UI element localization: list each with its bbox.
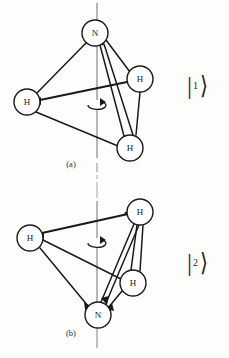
ket-2-number: 2 xyxy=(192,258,199,268)
bond-n-hleft-a xyxy=(37,43,86,93)
ket-state-2: |2⟩ xyxy=(187,251,209,276)
bond-hright-hbottom-a xyxy=(136,92,140,135)
atom-nitrogen-b: N xyxy=(85,302,111,328)
bond-n-hright-a xyxy=(106,40,130,72)
molecule-diagram-svg: N H H H (a) xyxy=(0,0,229,358)
atom-nitrogen-a: N xyxy=(82,20,108,46)
atom-label-h-left-a: H xyxy=(24,97,31,107)
atom-hydrogen-middle-b: H xyxy=(120,270,146,296)
atom-hydrogen-right-a: H xyxy=(127,66,153,92)
atom-hydrogen-bottom-a: H xyxy=(117,135,143,161)
bond-hleft-hmiddle-b xyxy=(43,240,121,279)
atom-label-n-b: N xyxy=(95,310,102,320)
atom-hydrogen-topright-b: H xyxy=(127,199,153,225)
bond-htopright-hmiddle-b-2 xyxy=(140,225,143,271)
ket-1-number: 1 xyxy=(192,81,199,91)
panel-a-group: N H H H (a) xyxy=(14,3,153,179)
bond-hleft-n-b xyxy=(40,248,88,306)
bond-hleft-htopright-b xyxy=(42,214,128,233)
bond-hleft-hbottom-a xyxy=(36,112,118,146)
atom-label-n-a: N xyxy=(92,28,99,38)
ammonia-inversion-figure: N H H H (a) xyxy=(0,0,229,358)
ket-1-angle: ⟩ xyxy=(200,73,208,98)
panel-b-group: H H H N (b) xyxy=(17,182,153,348)
bond-set-b xyxy=(37,209,143,311)
ket-state-1: |1⟩ xyxy=(187,74,209,99)
atom-label-h-left-b: H xyxy=(27,233,34,243)
atom-hydrogen-left-a: H xyxy=(14,89,40,115)
panel-caption-b: (b) xyxy=(66,328,76,338)
ket-2-angle: ⟩ xyxy=(200,250,208,275)
bond-set-a xyxy=(34,38,140,146)
atom-label-h-topright-b: H xyxy=(137,207,144,217)
atom-label-h-right-a: H xyxy=(137,74,144,84)
atom-label-h-middle-b: H xyxy=(130,278,137,288)
atom-hydrogen-left-b: H xyxy=(17,225,43,251)
atom-label-h-bottom-a: H xyxy=(127,143,134,153)
panel-caption-a: (a) xyxy=(66,159,76,169)
